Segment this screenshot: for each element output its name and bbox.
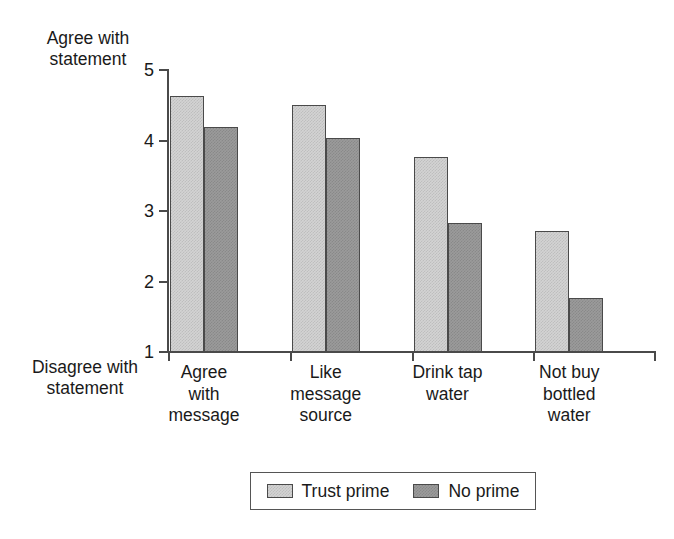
y-tick-3 [159, 210, 168, 212]
y-tick-label-4: 4 [114, 132, 154, 150]
bar-1-0 [292, 105, 326, 352]
bar-0-0 [170, 96, 204, 352]
legend-label-1: No prime [448, 482, 519, 500]
bar-2-0 [414, 157, 448, 352]
category-label-0: Agree with message [144, 362, 264, 427]
y-tick-4 [159, 140, 168, 142]
bar-3-1 [569, 298, 603, 352]
bar-2-1 [448, 223, 482, 352]
bar-1-1 [326, 138, 360, 352]
plot-area [168, 70, 655, 352]
legend-entry-1: No prime [413, 482, 519, 500]
y-axis-low-caption: Disagree with statement [10, 357, 160, 399]
category-label-1: Like message source [266, 362, 386, 427]
y-tick-2 [159, 281, 168, 283]
category-label-3: Not buy bottled water [509, 362, 629, 427]
y-tick-label-5: 5 [114, 61, 154, 79]
y-tick-label-1: 1 [114, 343, 154, 361]
x-tick-1 [290, 352, 292, 361]
y-tick-label-3: 3 [114, 202, 154, 220]
legend-swatch-0 [267, 484, 293, 498]
bar-0-1 [204, 127, 238, 352]
legend-entry-0: Trust prime [267, 482, 390, 500]
bar-chart: Agree with statement Disagree with state… [0, 0, 674, 539]
category-label-2: Drink tap water [388, 362, 508, 405]
chart-legend: Trust primeNo prime [250, 472, 536, 510]
x-tick-0 [168, 352, 170, 361]
legend-label-0: Trust prime [302, 482, 390, 500]
bar-3-0 [535, 231, 569, 352]
x-tick-2 [412, 352, 414, 361]
x-tick-3 [533, 352, 535, 361]
y-tick-label-2: 2 [114, 273, 154, 291]
y-tick-5 [159, 69, 168, 71]
y-tick-1 [159, 351, 168, 353]
legend-swatch-1 [413, 484, 439, 498]
x-tick-end [654, 352, 656, 361]
